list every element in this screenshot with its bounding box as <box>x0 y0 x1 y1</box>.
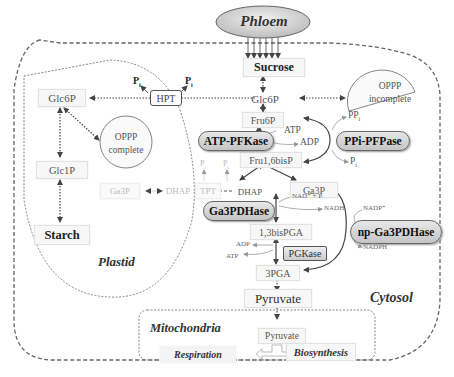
tpt-pi-right: Pi <box>223 160 229 170</box>
phloem-label: Phloem <box>236 14 292 29</box>
ppi-label: PPi <box>348 111 360 122</box>
pyruvate-mito: Pyruvate <box>258 328 306 344</box>
adp-label: ADP <box>300 138 319 148</box>
glc1p: Glc1P <box>36 161 88 179</box>
ga3pdhase-enzyme: Ga3PDHase <box>203 201 275 221</box>
ga3p-plastid: Ga3P <box>100 183 140 199</box>
plastid-label: Plastid <box>98 255 135 268</box>
fru16bisp: Fru1,6bisP <box>240 152 302 168</box>
ppi-text: PP <box>348 110 359 120</box>
pgkase-enzyme: PGKase <box>283 246 327 261</box>
oppp-incomplete-line2: incomplete <box>360 93 420 106</box>
mitochondria-label: Mitochondria <box>150 322 221 335</box>
pga3: 3PGA <box>256 265 300 281</box>
biosynthesis-box: Biosynthesis <box>286 343 356 361</box>
dhap-plastid: DHAP <box>160 183 196 199</box>
nadh-label: NADH <box>324 205 344 212</box>
respiration-box: Respiration <box>160 346 236 363</box>
atp-label: ATP <box>284 126 301 136</box>
atp-pgk-label: ATP <box>226 253 238 260</box>
diagram-canvas <box>0 0 454 377</box>
starch-box: Starch <box>34 225 90 245</box>
cytosol-label: Cytosol <box>370 291 413 305</box>
pi-sub: i <box>204 165 205 170</box>
ppi-pfpase-enzyme: PPi-PFPase <box>336 131 410 151</box>
glc6p-cytosol: Glc6P <box>247 91 283 107</box>
oppp-complete-line2: complete <box>100 144 152 157</box>
bispga: 1,3bisPGA <box>250 224 312 240</box>
oppp-complete-label: OPPP complete <box>100 131 152 157</box>
ppi-sub: i <box>359 116 361 122</box>
np-ga3pdhase-enzyme: np-Ga3PDHase <box>350 220 442 244</box>
pyruvate-cytosol: Pyruvate <box>244 289 312 308</box>
pi-sub: i <box>191 82 193 88</box>
atp-pfkase-enzyme: ATP-PFKase <box>198 131 274 151</box>
pi-sub: i <box>355 162 357 168</box>
oppp-complete-line1: OPPP <box>100 131 152 144</box>
nad-pi-label: NAD⁺ + Pᵢ <box>292 193 323 200</box>
dhap-cytosol: DHAP <box>234 184 266 200</box>
nadp-label: NADP⁺ <box>363 205 386 212</box>
fru6p: Fru6P <box>242 112 284 128</box>
pi-sub: i <box>227 165 228 170</box>
oppp-incomplete-line1: OPPP <box>360 80 420 93</box>
nadph-label: NADPH <box>363 244 387 251</box>
pi-sub: i <box>139 82 141 88</box>
glc6p-plastid: Glc6P <box>38 89 86 107</box>
tpt-pi-left: Pi <box>200 160 206 170</box>
tpt-transporter: TPT <box>195 183 221 199</box>
hpt-pi-right: Pi <box>185 76 193 88</box>
sucrose-box: Sucrose <box>243 58 305 77</box>
adp-pgk-label: ADP <box>236 241 250 248</box>
hpt-transporter: HPT <box>150 90 182 106</box>
pi-product-label: Pi <box>350 157 357 168</box>
oppp-incomplete-label: OPPP incomplete <box>360 80 420 106</box>
hpt-pi-left: Pi <box>133 76 141 88</box>
